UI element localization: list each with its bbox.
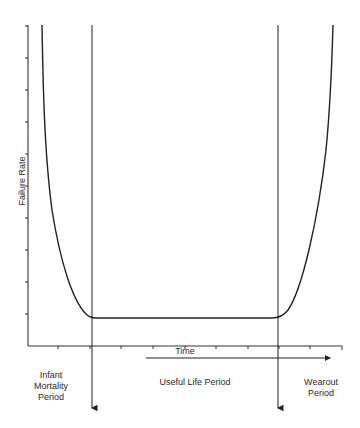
region-infant-line1: Infant <box>26 370 76 381</box>
region-infant-mortality: Infant Mortality Period <box>26 370 76 403</box>
region-wearout-line2: Period <box>296 388 346 399</box>
x-axis-label: Time <box>170 346 200 357</box>
region-wearout-line1: Wearout <box>296 377 346 388</box>
region-infant-line3: Period <box>26 392 76 403</box>
region-infant-line2: Mortality <box>26 381 76 392</box>
y-axis-label: Failure Rate <box>17 151 27 211</box>
bathtub-chart <box>0 0 360 428</box>
failure-rate-curve <box>42 25 333 318</box>
region-useful-life: Useful Life Period <box>150 377 240 388</box>
region-wearout: Wearout Period <box>296 377 346 399</box>
